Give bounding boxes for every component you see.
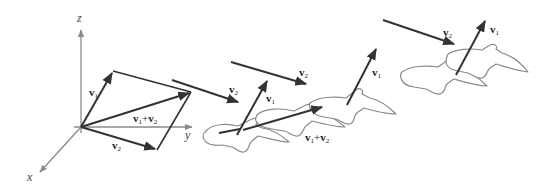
label-v1-flight-b: v1: [372, 66, 382, 80]
label-v1-flight-c: v1: [490, 23, 500, 37]
vector-parallelogram: v1 v2 v1+v2: [81, 71, 191, 153]
y-axis-label: y: [184, 128, 191, 142]
label-v2-flight-c: v2: [443, 26, 453, 40]
vector-v2-flight-b: [231, 62, 306, 84]
z-axis-label: z: [76, 11, 82, 25]
bird-flight-sequence: [203, 44, 528, 152]
label-v2-flight-a: v2: [229, 83, 239, 97]
label-sum-flight: v1+v2: [305, 131, 330, 145]
label-v1-flight-a: v1: [266, 92, 276, 106]
flight-v2-arrows: v2 v2 v2: [172, 20, 454, 102]
x-axis-label: x: [26, 170, 33, 184]
vector-addition-diagram: z y x v1 v2 v1+v2 v2 v2 v2 v1 v1 v1: [0, 0, 538, 188]
label-v2-origin: v2: [112, 139, 122, 153]
x-axis: [40, 127, 81, 172]
label-v2-flight-b: v2: [299, 66, 309, 80]
label-sum-origin: v1+v2: [133, 112, 158, 126]
label-v1-origin: v1: [89, 86, 99, 100]
coordinate-axes: z y x: [26, 11, 192, 184]
